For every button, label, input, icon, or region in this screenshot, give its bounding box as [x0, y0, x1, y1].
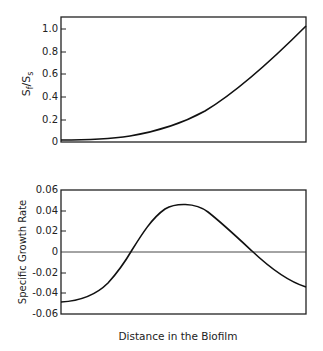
top-y-axis-label: Sf/Ss	[20, 72, 35, 97]
bottom-y-axis-label: Specific Growth Rate	[17, 200, 28, 304]
bottom-tick-neg0.04: -0.04	[32, 287, 58, 298]
top-tick-0.2: 0.2	[42, 114, 58, 125]
figure: 1.0 0.8 0.6 0.4 0.2 0 Sf/Ss 0.06 0.04 0.…	[0, 0, 323, 351]
top-plot-frame	[61, 17, 306, 142]
bottom-chart: 0.06 0.04 0.02 0 -0.02 -0.04 -0.06 Speci…	[17, 184, 306, 342]
bottom-tick-0.06: 0.06	[36, 184, 58, 195]
bottom-tick-0: 0	[52, 246, 58, 257]
top-tick-1.0: 1.0	[42, 23, 58, 34]
top-curve	[61, 26, 306, 140]
top-tick-0.4: 0.4	[42, 91, 58, 102]
bottom-tick-0.02: 0.02	[36, 225, 58, 236]
top-tick-0.8: 0.8	[42, 46, 58, 57]
top-tick-0: 0	[52, 136, 58, 147]
svg-text:Sf/Ss: Sf/Ss	[20, 72, 35, 97]
top-chart: 1.0 0.8 0.6 0.4 0.2 0 Sf/Ss	[20, 17, 306, 147]
bottom-tick-0.04: 0.04	[36, 205, 58, 216]
top-y-ticks: 1.0 0.8 0.6 0.4 0.2 0	[42, 23, 66, 147]
bottom-tick-neg0.02: -0.02	[32, 267, 58, 278]
bottom-x-axis-label: Distance in the Biofilm	[118, 330, 237, 342]
bottom-tick-neg0.06: -0.06	[32, 308, 58, 319]
bottom-curve	[61, 204, 306, 302]
top-tick-0.6: 0.6	[42, 68, 58, 79]
